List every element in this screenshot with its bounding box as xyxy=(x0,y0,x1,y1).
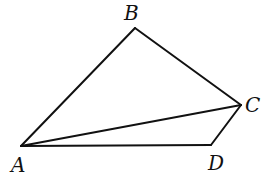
vertex-label-a: A xyxy=(9,153,25,177)
segment-cd xyxy=(211,105,241,145)
segment-bc xyxy=(135,28,241,105)
segment-da xyxy=(21,145,211,146)
vertex-label-c: C xyxy=(245,93,260,117)
vertex-label-b: B xyxy=(123,1,139,25)
vertex-label-d: D xyxy=(207,151,224,175)
geometry-diagram: A B C D xyxy=(0,0,276,186)
diagram-svg: A B C D xyxy=(0,0,276,186)
